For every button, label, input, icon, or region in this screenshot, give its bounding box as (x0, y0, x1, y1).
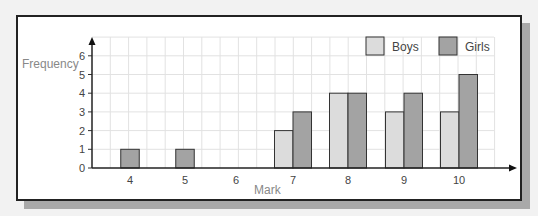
bar-boys (386, 112, 405, 168)
y-tick-label: 6 (79, 50, 85, 62)
y-tick-label: 4 (79, 87, 85, 99)
legend-label-girls: Girls (465, 40, 490, 54)
y-tick-label: 2 (79, 125, 85, 137)
y-tick-label: 1 (79, 143, 85, 155)
bar-girls (176, 149, 195, 168)
x-tick-label: 6 (233, 174, 239, 186)
x-tick-label: 5 (182, 174, 188, 186)
y-tick-label: 3 (79, 106, 85, 118)
x-axis-label: Mark (254, 183, 282, 197)
legend-swatch-girls (439, 37, 457, 55)
y-tick-label: 5 (79, 69, 85, 81)
legend-label-boys: Boys (392, 40, 419, 54)
bar-girls (121, 149, 140, 168)
y-axis-arrow-icon (89, 37, 96, 45)
bar-boys (441, 112, 460, 168)
bar-girls (404, 93, 423, 168)
bar-chart: 012345645678910FrequencyMarkBoysGirls (0, 0, 538, 216)
x-axis-arrow-icon (509, 165, 517, 172)
legend-swatch-boys (366, 37, 384, 55)
bar-boys (275, 131, 294, 168)
bar-girls (459, 75, 478, 169)
x-tick-label: 8 (345, 174, 351, 186)
x-tick-label: 4 (127, 174, 133, 186)
bar-boys (330, 93, 349, 168)
bar-girls (348, 93, 367, 168)
x-tick-label: 7 (290, 174, 296, 186)
y-tick-label: 0 (79, 162, 85, 174)
x-tick-label: 10 (453, 174, 465, 186)
y-axis-label: Frequency (22, 57, 79, 71)
x-tick-label: 9 (401, 174, 407, 186)
bar-girls (293, 112, 312, 168)
